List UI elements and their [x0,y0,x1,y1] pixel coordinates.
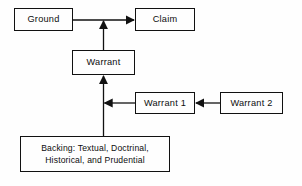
node-backing[interactable]: Backing: Textual, Doctrinal, Historical,… [20,136,170,172]
node-warrant-2-label: Warrant 2 [228,97,274,110]
node-claim-label: Claim [151,13,180,26]
diagram-canvas: Ground Claim Warrant Warrant 1 Warrant 2… [0,0,302,186]
node-warrant-1[interactable]: Warrant 1 [135,92,195,114]
node-warrant[interactable]: Warrant [72,50,135,75]
node-ground[interactable]: Ground [14,8,73,31]
node-warrant-label: Warrant [84,56,122,69]
node-ground-label: Ground [25,13,61,26]
node-backing-label: Backing: Textual, Doctrinal, Historical,… [39,142,151,166]
node-warrant-2[interactable]: Warrant 2 [220,92,283,114]
node-claim[interactable]: Claim [135,8,195,31]
node-warrant-1-label: Warrant 1 [142,97,188,110]
